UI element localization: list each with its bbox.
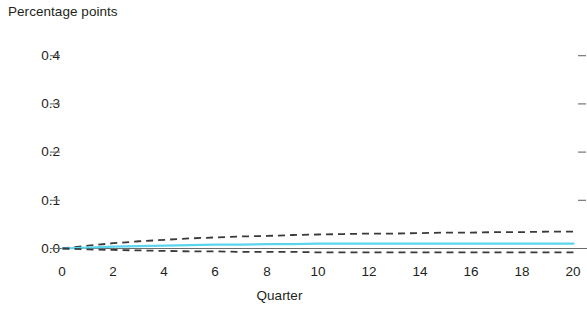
x-axis-title-wrap: Quarter <box>0 288 587 304</box>
line-chart: Percentage points 0.4 0.3 0.2 0.1 0.0 0 … <box>0 0 587 315</box>
x-axis-tick-label: 12 <box>349 264 389 279</box>
x-axis-tick-label: 8 <box>247 264 287 279</box>
x-axis-tick-label: 2 <box>93 264 133 279</box>
x-axis-tick-label: 16 <box>451 264 491 279</box>
x-axis-tick-label: 0 <box>42 264 82 279</box>
y-axis-tick-marks-right <box>578 56 586 201</box>
x-axis-tick-label: 14 <box>400 264 440 279</box>
data-series-layer <box>63 232 574 253</box>
x-axis-tick-label: 20 <box>553 264 587 279</box>
x-axis-tick-label: 10 <box>298 264 338 279</box>
x-axis-tick-label: 18 <box>502 264 542 279</box>
x-axis-tick-label: 6 <box>195 264 235 279</box>
y-axis-tick-marks-left <box>50 56 60 249</box>
series-line <box>63 244 574 249</box>
x-axis-title: Quarter <box>257 288 303 304</box>
plot-area <box>0 0 587 315</box>
x-axis-tick-label: 4 <box>144 264 184 279</box>
